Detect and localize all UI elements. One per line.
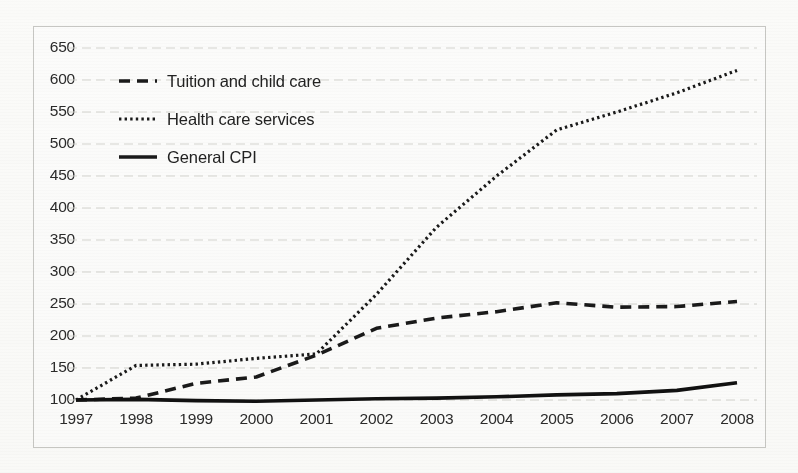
chart-legend: Tuition and child careHealth care servic… — [118, 62, 321, 176]
legend-swatch-dotted-icon — [118, 112, 158, 126]
legend-label: General CPI — [167, 148, 257, 167]
series-line-tuition-and-child-care — [76, 301, 737, 400]
legend-label: Tuition and child care — [167, 72, 321, 91]
chart-screenshot: 650600550500450400350300250200150100 199… — [0, 0, 798, 473]
legend-item-general-cpi[interactable]: General CPI — [118, 138, 321, 176]
legend-swatch-dashed-icon — [118, 74, 158, 88]
legend-swatch-solid-icon — [118, 150, 158, 164]
legend-item-health-care-services[interactable]: Health care services — [118, 100, 321, 138]
legend-item-tuition-and-child-care[interactable]: Tuition and child care — [118, 62, 321, 100]
series-line-general-cpi — [76, 383, 737, 402]
legend-label: Health care services — [167, 110, 314, 129]
